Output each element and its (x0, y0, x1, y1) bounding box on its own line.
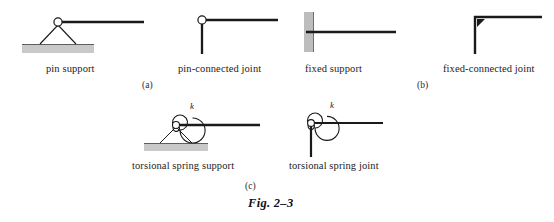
spring-constant-label-support: k (190, 101, 194, 111)
pin-circle (54, 18, 62, 26)
pin-connected-joint-caption: pin-connected joint (178, 63, 261, 74)
corner-gusset (477, 19, 485, 27)
fixed-support-diagram (296, 8, 426, 60)
pin-support-diagram (16, 8, 156, 60)
ground-block (144, 143, 208, 151)
figure-number-caption: Fig. 2–3 (248, 196, 293, 211)
torsional-spring-support-caption: torsional spring support (132, 160, 234, 171)
pin-circle (198, 16, 206, 24)
torsional-spring-support-diagram (140, 105, 270, 160)
pin-connected-joint-diagram (190, 8, 300, 60)
pin-leg-right (58, 25, 76, 44)
fixed-support-caption: fixed support (305, 63, 362, 74)
torsional-spring-joint-caption: torsional spring joint (289, 160, 379, 171)
row-label-a: (a) (142, 80, 153, 90)
pin-circle (308, 120, 315, 127)
figure-2-3: pin support pin-connected joint (a) fixe… (0, 0, 554, 222)
pin-leg-left (40, 25, 58, 44)
row-label-c: (c) (245, 181, 256, 191)
torsional-spring-joint-diagram (285, 105, 405, 160)
row-label-b: (b) (417, 80, 428, 90)
pin-circle (173, 122, 180, 129)
pin-support-caption: pin support (46, 63, 95, 74)
ground-block (22, 44, 94, 53)
fixed-connected-joint-diagram (466, 8, 554, 60)
fixed-connected-joint-caption: fixed-connected joint (443, 63, 535, 74)
spring-constant-label-joint: k (330, 100, 334, 110)
